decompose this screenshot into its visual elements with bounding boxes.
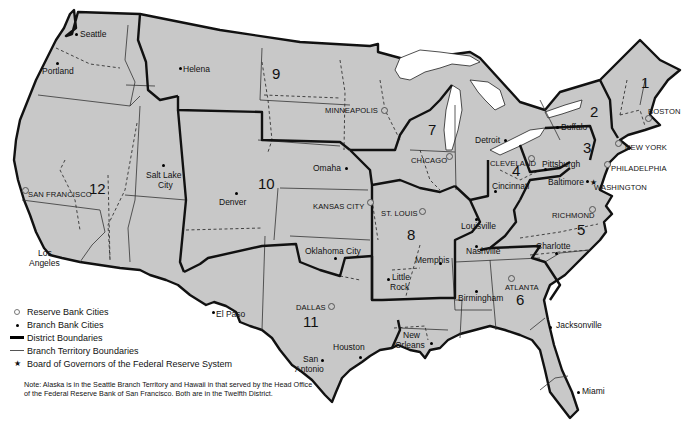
washington-label: WASHINGTON — [594, 184, 647, 192]
charlotte-label: Charlotte — [536, 242, 571, 251]
new-orleans-label-2: Orleans — [395, 341, 425, 350]
baltimore-marker — [586, 180, 589, 183]
district-number-6: 6 — [516, 292, 524, 307]
new-orleans-label-1: New — [403, 331, 420, 340]
legend-label: District Boundaries — [27, 333, 103, 343]
omaha-label: Omaha — [313, 164, 341, 173]
san-antonio-label-1: San — [303, 355, 318, 364]
salt-lake-city-marker — [162, 164, 165, 167]
salt-lake-city-label-1: Salt Lake — [146, 171, 181, 180]
alaska-hawaii-note: Note: Alaska is in the Seattle Branch Te… — [24, 380, 314, 399]
jacksonville-label: Jacksonville — [556, 321, 602, 330]
minneapolis-label: MINNEAPOLIS — [325, 107, 378, 115]
chicago-label: CHICAGO — [411, 157, 447, 165]
helena-label: Helena — [183, 65, 210, 74]
kansas-city-label: KANSAS CITY — [313, 203, 364, 211]
district-number-7: 7 — [428, 122, 436, 137]
legend-item-branch-bank-cities: Branch Bank Cities — [10, 319, 232, 332]
district-number-9: 9 — [272, 66, 280, 81]
houston-marker — [359, 356, 362, 359]
district-number-10: 10 — [258, 176, 275, 191]
los-angeles-label-2: Angeles — [29, 259, 60, 268]
portland-label: Portland — [42, 67, 74, 76]
new-york-reserve-marker — [615, 140, 622, 147]
portland-marker — [56, 62, 59, 65]
nashville-label: Nashville — [466, 247, 501, 256]
atlanta-reserve-marker — [508, 275, 515, 282]
houston-label: Houston — [333, 343, 365, 352]
salt-lake-city-label-2: City — [158, 181, 173, 190]
thin-line-icon — [10, 350, 24, 351]
helena-marker — [179, 67, 182, 70]
legend-item-district-boundaries: District Boundaries — [10, 332, 232, 345]
philadelphia-label: PHILADELPHIA — [611, 165, 667, 173]
los-angeles-label-1: Los — [38, 249, 52, 258]
little-rock-label-1: Little — [392, 273, 410, 282]
san-antonio-marker — [321, 359, 324, 362]
kansas-city-reserve-marker — [367, 199, 374, 206]
st-louis-reserve-marker — [419, 208, 426, 215]
cincinnati-label: Cincinnati — [492, 182, 529, 191]
cleveland-label: CLEVELAND — [490, 160, 536, 168]
legend-label: Branch Bank Cities — [27, 320, 104, 330]
richmond-label: RICHMOND — [552, 212, 595, 220]
little-rock-marker — [387, 278, 390, 281]
boston-reserve-marker — [645, 115, 652, 122]
oklahoma-city-marker — [334, 257, 337, 260]
atlanta-label: ATLANTA — [505, 284, 539, 292]
dallas-label: DALLAS — [296, 304, 326, 312]
louisville-label: Louisville — [461, 222, 496, 231]
st-louis-label: ST. LOUIS — [381, 210, 418, 218]
legend-label: Branch Territory Boundaries — [27, 346, 138, 356]
reserve-bank-ring-icon — [14, 309, 20, 315]
district-number-2: 2 — [590, 104, 598, 119]
legend-item-reserve-bank-cities: Reserve Bank Cities — [10, 306, 232, 319]
new-orleans-marker — [430, 342, 433, 345]
legend-label: Board of Governors of the Federal Reserv… — [27, 359, 232, 369]
district-number-8: 8 — [407, 227, 415, 242]
memphis-label: Memphis — [415, 256, 449, 265]
philadelphia-reserve-marker — [604, 161, 611, 168]
branch-bank-dot-icon — [16, 324, 19, 327]
birmingham-label: Birmingham — [458, 294, 503, 303]
dallas-reserve-marker — [328, 303, 335, 310]
map-legend: Reserve Bank Cities Branch Bank Cities D… — [10, 306, 232, 370]
san-francisco-label: SAN FRANCISCO — [28, 191, 92, 199]
miami-label: Miami — [582, 387, 605, 396]
denver-marker — [235, 192, 238, 195]
buffalo-label: Buffalo — [561, 123, 587, 132]
detroit-marker — [504, 139, 507, 142]
oklahoma-city-label: Oklahoma City — [305, 247, 361, 256]
new-york-label: NEW YORK — [625, 144, 667, 152]
miami-marker — [577, 391, 580, 394]
thick-line-icon — [10, 336, 24, 339]
pittsburgh-label: Pittsburgh — [542, 160, 580, 169]
boston-label: BOSTON — [648, 108, 681, 116]
omaha-marker — [345, 167, 348, 170]
district-number-11: 11 — [303, 314, 319, 329]
seattle-label: Seattle — [80, 30, 106, 39]
baltimore-label: Baltimore — [548, 178, 584, 187]
buffalo-marker — [556, 126, 559, 129]
san-antonio-label-2: Antonio — [295, 365, 324, 374]
legend-item-board-of-governors: ★ Board of Governors of the Federal Rese… — [10, 357, 232, 370]
district-number-5: 5 — [577, 222, 585, 237]
district-number-3: 3 — [583, 140, 591, 155]
detroit-label: Detroit — [475, 136, 500, 145]
legend-item-branch-territory-boundaries: Branch Territory Boundaries — [10, 344, 232, 357]
little-rock-label-2: Rock — [390, 283, 409, 292]
legend-label: Reserve Bank Cities — [27, 307, 109, 317]
district-number-1: 1 — [641, 75, 649, 90]
minneapolis-reserve-marker — [381, 107, 388, 114]
jacksonville-marker — [549, 326, 552, 329]
charlotte-marker — [555, 252, 558, 255]
seattle-marker — [75, 33, 78, 36]
denver-label: Denver — [219, 198, 246, 207]
star-icon: ★ — [14, 360, 21, 368]
